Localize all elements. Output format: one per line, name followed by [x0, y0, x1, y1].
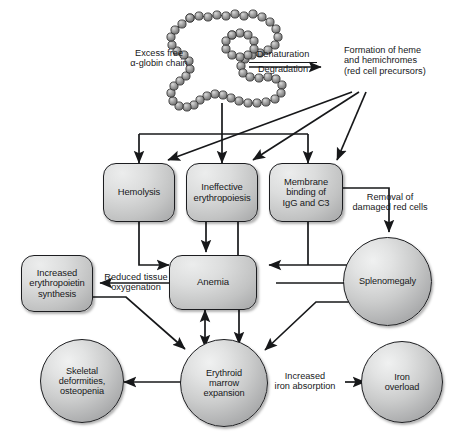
node-erythroid-marrow-expansion[interactable]: Erythroid marrow expansion: [180, 339, 268, 427]
node-iron-overload-label: Iron overload: [383, 372, 421, 392]
removal-damaged-cells-label: Removal of damaged red cells: [343, 192, 437, 213]
node-erythropoietin-synthesis[interactable]: Increased erythropoietin synthesis: [21, 255, 93, 312]
excess-globin-label: Excess free α-globin chain: [123, 48, 195, 69]
node-ineffective-erythropoiesis[interactable]: Ineffective erythropoiesis: [186, 163, 258, 222]
degradation-label: Degradation: [249, 64, 317, 74]
node-anemia[interactable]: Anemia: [169, 255, 257, 310]
node-skeletal-deformities-label: Skeletal deformities, osteopenia: [57, 366, 107, 396]
node-splenomegaly-label: Splenomegaly: [357, 276, 418, 286]
node-anemia-label: Anemia: [195, 277, 231, 288]
node-membrane-binding-label: Membrane binding of IgG and C3: [281, 177, 332, 208]
iron-absorption-label: Increased iron absorption: [264, 371, 346, 392]
node-membrane-binding[interactable]: Membrane binding of IgG and C3: [269, 163, 343, 222]
reduced-oxygenation-label: Reduced tissue oxygenation: [103, 272, 169, 293]
node-splenomegaly[interactable]: Splenomegaly: [343, 237, 432, 326]
denaturation-label: Denaturation: [249, 49, 317, 59]
node-hemolysis-label: Hemolysis: [116, 187, 162, 197]
node-iron-overload[interactable]: Iron overload: [361, 341, 443, 423]
node-erythropoietin-synthesis-label: Increased erythropoietin synthesis: [27, 268, 86, 299]
pathophysiology-diagram: Excess free α-globin chain Denaturation …: [0, 0, 458, 438]
node-ineffective-erythropoiesis-label: Ineffective erythropoiesis: [192, 182, 253, 203]
node-skeletal-deformities[interactable]: Skeletal deformities, osteopenia: [40, 339, 124, 423]
heme-formation-label: Formation of heme and hemichromes (red c…: [344, 45, 456, 76]
node-erythroid-marrow-expansion-label: Erythroid marrow expansion: [202, 368, 247, 398]
node-hemolysis[interactable]: Hemolysis: [103, 163, 175, 222]
